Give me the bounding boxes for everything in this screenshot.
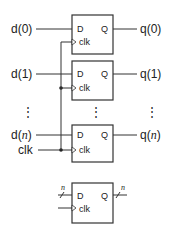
flipflop-1: d(1) D Q clk q(1) [11, 61, 161, 100]
clk-pin-label: clk [79, 83, 90, 93]
flipflop-0: d(0) D Q clk q(0) [11, 15, 161, 54]
q-pin-label: Q [101, 191, 108, 201]
register-symbol: n D Q n clk [58, 183, 127, 223]
d-pin-label: D [77, 24, 84, 34]
clock-input-label: clk [18, 143, 34, 157]
ellipsis-inputs: ⋮ [22, 105, 34, 119]
clk-pin-label: clk [79, 204, 90, 214]
clk-pin-label: clk [79, 37, 90, 47]
ellipsis-flipflops: ⋮ [90, 105, 102, 119]
input-dn-label: d(n) [11, 128, 32, 142]
ellipsis-outputs: ⋮ [146, 105, 158, 119]
d-pin-label: D [77, 69, 84, 79]
clk-pin-label: clk [79, 145, 90, 155]
output-q1-label: q(1) [140, 67, 161, 81]
d-pin-label: D [77, 130, 84, 140]
input-d1-label: d(1) [11, 67, 32, 81]
register-diagram: d(0) D Q clk q(0) d(1) D Q clk q(1) ⋮ ⋮ … [0, 0, 170, 239]
output-qn-label: q(n) [140, 128, 161, 142]
d-pin-label: D [77, 191, 84, 201]
bus-width-in-label: n [61, 183, 65, 192]
q-pin-label: Q [101, 130, 108, 140]
flipflop-0-box [72, 15, 113, 54]
q-pin-label: Q [101, 24, 108, 34]
bus-width-out-label: n [121, 183, 125, 192]
q-pin-label: Q [101, 69, 108, 79]
flipflop-n: d(n) D Q clk q(n) [11, 125, 161, 162]
register-symbol-box [72, 183, 113, 223]
input-d0-label: d(0) [11, 22, 32, 36]
flipflop-1-box [72, 61, 113, 100]
output-q0-label: q(0) [140, 22, 161, 36]
